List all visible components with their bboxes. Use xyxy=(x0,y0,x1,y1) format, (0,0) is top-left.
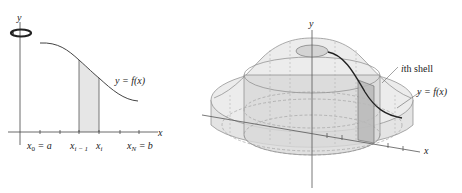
rotation-arrow-icon xyxy=(11,30,31,37)
svg-text:xi: xi xyxy=(95,140,102,153)
x-axis-label: x xyxy=(157,127,163,138)
x-axis-label-3d: x xyxy=(423,145,429,156)
y-axis-label-3d: y xyxy=(308,18,314,29)
right-figure: y x ith shell y = f(x) xyxy=(202,18,448,188)
shaded-strip xyxy=(79,60,99,132)
left-figure: y x y = f(x) x0 = a xi − 1 xi xN = b xyxy=(8,12,163,153)
svg-text:xN = b: xN = b xyxy=(126,140,153,153)
curve-label-3d: y = f(x) xyxy=(416,86,448,98)
tick-labels: x0 = a xi − 1 xi xN = b xyxy=(26,140,153,153)
curve-label: y = f(x) xyxy=(114,75,146,87)
ith-shell-label: ith shell xyxy=(401,63,433,74)
y-axis-label: y xyxy=(16,12,22,23)
svg-text:x0 = a: x0 = a xyxy=(26,140,52,153)
svg-text:xi − 1: xi − 1 xyxy=(69,140,88,153)
shell-method-diagram: y x y = f(x) x0 = a xi − 1 xi xN = b xyxy=(0,0,462,193)
ith-shell xyxy=(358,80,374,143)
